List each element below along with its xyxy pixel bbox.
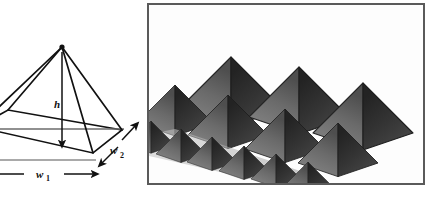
w1-arrow — [0, 160, 96, 174]
w2-label: w — [110, 144, 118, 156]
pyramid-array-render — [147, 3, 425, 185]
w1-subscript: 1 — [46, 174, 50, 183]
w2-arrow — [101, 125, 136, 164]
pyramid-wireframe-diagram: h w 1 w 2 — [0, 0, 147, 197]
pyramid-figure: h w 1 w 2 — [0, 0, 438, 197]
height-label: h — [54, 98, 60, 110]
pyramid-side-edges — [0, 47, 122, 153]
wireframe-svg: h w 1 w 2 — [0, 0, 147, 197]
pyramid-array-svg — [149, 5, 423, 183]
apex-vertex — [59, 44, 64, 49]
w2-subscript: 2 — [120, 151, 124, 160]
pyramid-base-outline — [0, 110, 122, 153]
w1-label: w — [36, 168, 44, 180]
